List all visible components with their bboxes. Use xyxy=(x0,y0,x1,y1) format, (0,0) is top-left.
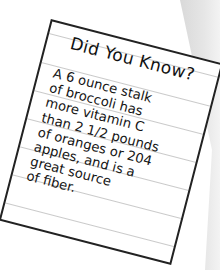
did-you-know-graphic: Did You Know? A 6 ounce stalk of broccol… xyxy=(0,0,220,270)
fact-text: A 6 ounce stalk of broccoli has more vit… xyxy=(25,66,205,222)
